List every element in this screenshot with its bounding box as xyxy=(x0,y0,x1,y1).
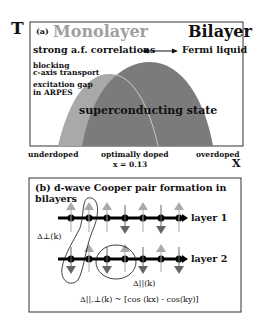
layer-2-label: layer 2 xyxy=(191,253,227,264)
cooper-pair-panel xyxy=(0,0,256,326)
delta-par-label: Δ||(k) xyxy=(133,279,155,288)
delta-perp-label: Δ⊥(k) xyxy=(37,232,61,241)
panel-b-title: (b) d-wave Cooper pair formation in bila… xyxy=(35,182,256,204)
gap-formula: Δ||,⊥(k) ~ [cos (kx) - cos(ky)] xyxy=(80,295,199,304)
layer-1-label: layer 1 xyxy=(191,212,227,223)
